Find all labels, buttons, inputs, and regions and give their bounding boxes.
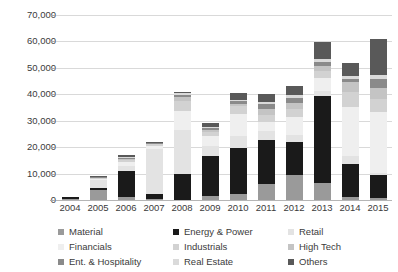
bar-segment xyxy=(286,109,303,117)
legend-item[interactable]: Financials xyxy=(58,241,173,252)
bar-segment xyxy=(314,183,331,200)
x-axis-tick-label: 2006 xyxy=(112,202,140,213)
bar-segment xyxy=(230,148,247,194)
bar-segment xyxy=(202,136,219,146)
bar-segment xyxy=(370,112,387,173)
bar-segment xyxy=(314,78,331,91)
x-axis-tick-label: 2009 xyxy=(196,202,224,213)
legend-swatch-icon xyxy=(173,244,179,250)
bar-segment xyxy=(258,131,275,140)
y-axis-tick-mark xyxy=(50,15,55,16)
bar-column xyxy=(280,15,308,200)
bar-column xyxy=(56,15,84,200)
legend-swatch-icon xyxy=(288,259,294,265)
x-axis-tick-label: 2005 xyxy=(84,202,112,213)
bar-segment xyxy=(230,136,247,148)
bar-segment xyxy=(230,106,247,114)
bar-segment xyxy=(258,184,275,200)
x-axis-tick-label: 2013 xyxy=(308,202,336,213)
stacked-bar xyxy=(174,92,191,200)
x-axis-labels: 2004200520062007200820092010201120122013… xyxy=(56,202,392,213)
bar-segment xyxy=(342,107,359,156)
bar-segment xyxy=(370,39,387,75)
legend-label: Industrials xyxy=(184,241,227,252)
bar-column xyxy=(196,15,224,200)
x-axis-tick-label: 2011 xyxy=(252,202,280,213)
bar-segment xyxy=(370,175,387,198)
legend-label: Financials xyxy=(69,241,112,252)
bar-segment xyxy=(370,79,387,88)
bar-segment xyxy=(202,146,219,156)
legend-label: Real Estate xyxy=(184,256,233,267)
plot-area xyxy=(56,15,392,200)
legend-label: Energy & Power xyxy=(184,226,253,237)
bar-series-container xyxy=(56,15,392,200)
bar-segment xyxy=(202,156,219,197)
legend-swatch-icon xyxy=(173,229,179,235)
bar-segment xyxy=(342,63,359,76)
legend-label: Material xyxy=(69,226,103,237)
legend-label: Ent. & Hospitality xyxy=(69,256,141,267)
stacked-bar xyxy=(146,142,163,200)
bar-segment xyxy=(286,135,303,142)
bar-segment xyxy=(174,174,191,200)
bar-segment xyxy=(146,149,163,194)
legend-item[interactable]: Industrials xyxy=(173,241,288,252)
bar-column xyxy=(112,15,140,200)
legend-swatch-icon xyxy=(173,259,179,265)
bar-column xyxy=(84,15,112,200)
bar-segment xyxy=(286,86,303,94)
bar-segment xyxy=(174,101,191,111)
stacked-bar xyxy=(370,39,387,200)
legend-item[interactable]: Material xyxy=(58,226,173,237)
legend-swatch-icon xyxy=(288,244,294,250)
x-axis-tick-label: 2015 xyxy=(364,202,392,213)
x-axis-tick-label: 2004 xyxy=(56,202,84,213)
stacked-bar xyxy=(314,42,331,200)
stacked-bar xyxy=(258,94,275,200)
axis-baseline xyxy=(56,200,392,201)
legend-label: Others xyxy=(299,256,328,267)
bar-column xyxy=(364,15,392,200)
bar-segment xyxy=(286,117,303,135)
bar-segment xyxy=(118,171,135,196)
stacked-bar xyxy=(202,123,219,200)
x-axis-tick-label: 2010 xyxy=(224,202,252,213)
legend-item[interactable]: Ent. & Hospitality xyxy=(58,256,173,267)
bar-segment xyxy=(370,88,387,99)
legend-item[interactable]: High Tech xyxy=(288,241,388,252)
bar-column xyxy=(308,15,336,200)
bar-segment xyxy=(314,71,331,78)
bar-segment xyxy=(370,99,387,112)
bar-segment xyxy=(286,142,303,175)
legend-item[interactable]: Retail xyxy=(288,226,388,237)
bar-segment xyxy=(230,93,247,100)
legend-item[interactable]: Energy & Power xyxy=(173,226,288,237)
y-axis-tick-mark xyxy=(50,147,55,148)
bar-segment xyxy=(62,199,79,200)
bar-column xyxy=(168,15,196,200)
bar-segment xyxy=(314,96,331,183)
stacked-bar-chart: 010,00020,00030,00040,00050,00060,00070,… xyxy=(0,0,398,272)
bar-segment xyxy=(202,196,219,200)
legend-swatch-icon xyxy=(288,229,294,235)
legend-swatch-icon xyxy=(58,259,64,265)
x-axis-tick-label: 2008 xyxy=(168,202,196,213)
stacked-bar xyxy=(230,93,247,200)
legend-item[interactable]: Real Estate xyxy=(173,256,288,267)
y-axis-tick-mark xyxy=(50,94,55,95)
bar-segment xyxy=(342,197,359,200)
x-axis-tick-label: 2012 xyxy=(280,202,308,213)
bar-segment xyxy=(118,197,135,200)
legend-label: High Tech xyxy=(299,241,341,252)
y-axis-tick-mark xyxy=(50,174,55,175)
bar-segment xyxy=(258,140,275,185)
bar-segment xyxy=(174,130,191,174)
legend-label: Retail xyxy=(299,226,323,237)
legend-item[interactable]: Others xyxy=(288,256,388,267)
y-axis-tick-mark xyxy=(50,68,55,69)
y-axis-tick-mark xyxy=(50,41,55,42)
bar-segment xyxy=(230,194,247,200)
stacked-bar xyxy=(90,176,107,200)
bar-column xyxy=(252,15,280,200)
